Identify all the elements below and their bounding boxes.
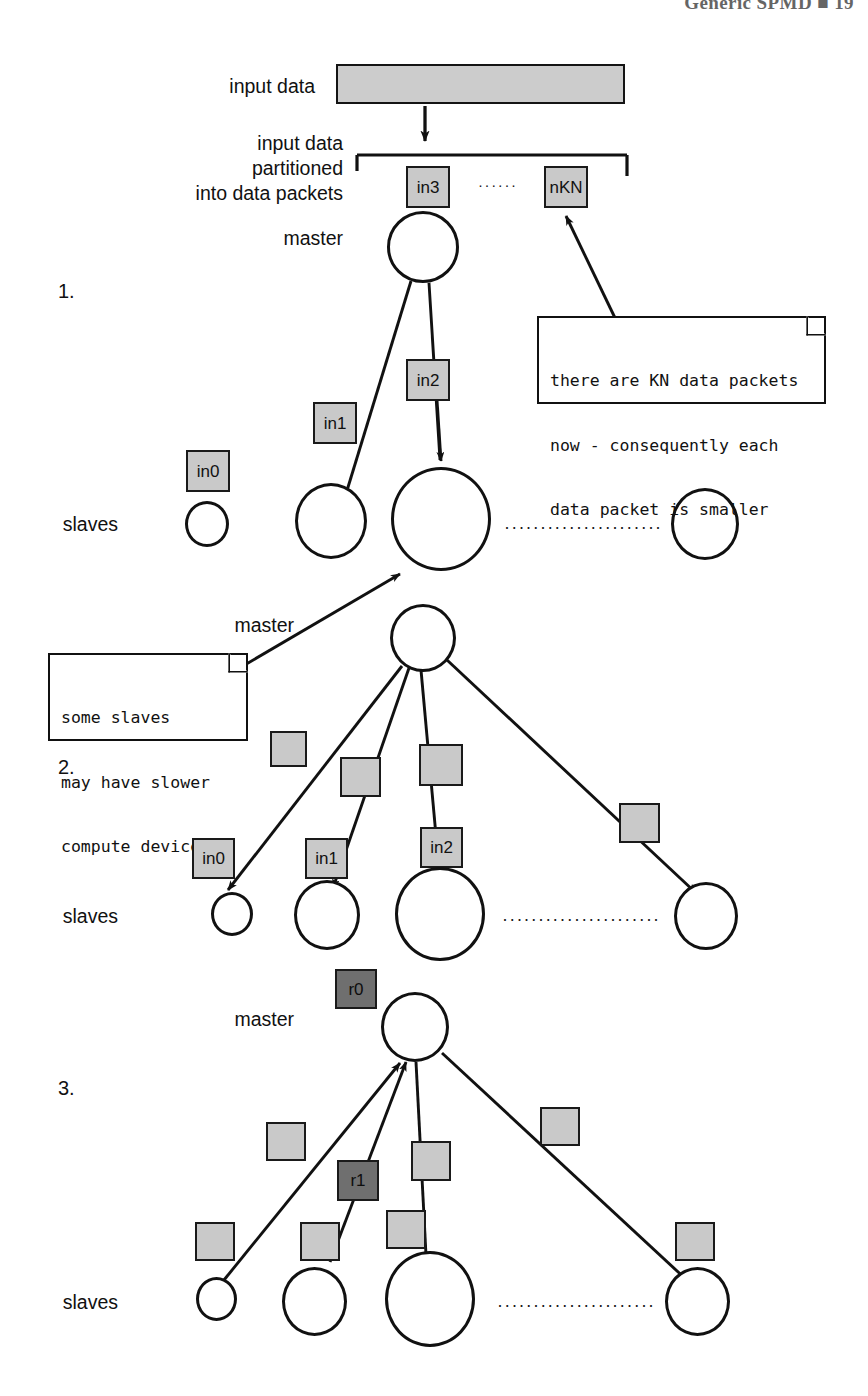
packet-blank-e-step3[interactable] — [300, 1222, 340, 1261]
master-node-step1[interactable] — [387, 211, 459, 283]
slave-node-2-step2[interactable] — [294, 880, 360, 950]
label-master-step2: master — [130, 613, 294, 638]
packet-in2-step1[interactable]: in2 — [406, 359, 450, 401]
step-number-1: 1. — [58, 280, 75, 303]
packet-blank-d-step2[interactable] — [619, 803, 660, 843]
diagram-canvas: Generic SPMD ■ 19 — [0, 0, 868, 1396]
step3-connectors — [224, 1053, 690, 1283]
slave-node-1-step1[interactable] — [185, 501, 229, 547]
packet-blank-f-step3[interactable] — [386, 1210, 426, 1249]
slave-node-1-step2[interactable] — [211, 892, 253, 936]
slaves-ellipsis-step3: ······················ — [497, 1296, 655, 1314]
label-slaves-step3: slaves — [0, 1290, 118, 1315]
note-slower-devices: some slaves may have slower compute devi… — [48, 653, 248, 741]
packet-blank-a-step3[interactable] — [266, 1122, 306, 1161]
note-slow-line1: some slaves — [61, 707, 236, 729]
packet-in1-step2[interactable]: in1 — [305, 838, 348, 879]
running-header: Generic SPMD ■ 19 — [684, 0, 854, 14]
label-master-step1: master — [140, 226, 343, 251]
slave-node-3-step2[interactable] — [395, 867, 485, 961]
partition-ellipsis: ······ — [478, 177, 518, 192]
packet-blank-b-step2[interactable] — [340, 757, 381, 797]
slave-node-1-step3[interactable] — [196, 1277, 237, 1321]
packet-blank-b-step3[interactable] — [411, 1141, 451, 1181]
slave-node-3-step1[interactable] — [391, 467, 491, 571]
packet-r0-step3[interactable]: r0 — [335, 969, 377, 1009]
note-kn-packets: there are KN data packets now - conseque… — [537, 316, 826, 404]
packet-in0-step2[interactable]: in0 — [192, 838, 235, 879]
packet-r1-step3[interactable]: r1 — [337, 1160, 379, 1201]
master-node-step2[interactable] — [390, 604, 456, 672]
note-kn-line3: data packet is smaller — [550, 499, 814, 521]
note-fold-corner-icon — [806, 316, 826, 336]
label-partition-l2: partitioned — [100, 156, 343, 181]
slave-node-2-step3[interactable] — [282, 1267, 347, 1336]
slave-node-3-step3[interactable] — [385, 1251, 475, 1347]
packet-blank-c-step2[interactable] — [419, 744, 463, 786]
packet-in0-step1[interactable]: in0 — [186, 450, 230, 492]
packet-in1-step1[interactable]: in1 — [313, 402, 357, 444]
label-master-step3: master — [130, 1007, 294, 1032]
packet-in3[interactable]: in3 — [406, 166, 450, 208]
step-number-3: 3. — [58, 1077, 75, 1100]
packet-blank-d-step3[interactable] — [195, 1222, 235, 1261]
packet-blank-a-step2[interactable] — [270, 731, 307, 767]
label-slaves-step2: slaves — [0, 904, 118, 929]
packet-in2-step2[interactable]: in2 — [420, 827, 463, 868]
note-fold-corner-icon — [228, 653, 248, 673]
label-partition-l1: input data — [100, 131, 343, 156]
note-kn-line2: now - consequently each — [550, 435, 814, 457]
packet-nkn[interactable]: nKN — [544, 166, 588, 208]
input-data-bar — [336, 64, 625, 104]
label-partition-l3: into data packets — [60, 181, 343, 206]
label-slaves-step1: slaves — [0, 512, 118, 537]
slaves-ellipsis-step2: ······················ — [502, 910, 660, 928]
note-slow-line2: may have slower — [61, 772, 236, 794]
label-input-data: input data — [100, 74, 315, 99]
slave-node-4-step3[interactable] — [665, 1267, 730, 1336]
slave-node-4-step2[interactable] — [674, 882, 738, 950]
slave-node-2-step1[interactable] — [295, 483, 367, 559]
packet-blank-g-step3[interactable] — [675, 1222, 715, 1261]
master-node-step3[interactable] — [381, 992, 449, 1062]
note-kn-line1: there are KN data packets — [550, 370, 814, 392]
packet-blank-c-step3[interactable] — [540, 1107, 580, 1146]
